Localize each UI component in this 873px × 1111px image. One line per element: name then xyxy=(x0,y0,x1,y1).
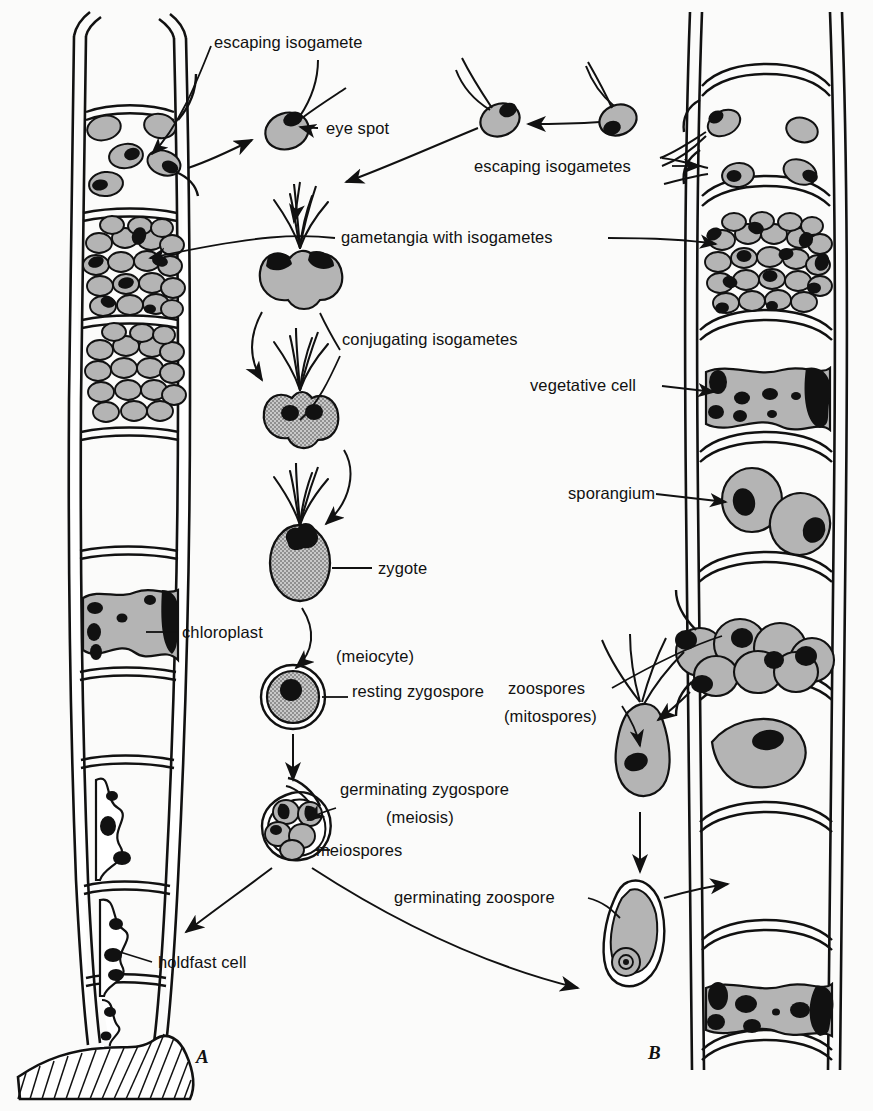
label-meiosis: (meiosis) xyxy=(386,808,454,826)
resting-zygospore xyxy=(261,665,325,729)
label-meiocyte: (meiocyte) xyxy=(336,647,414,665)
label-escaping-isogametes: escaping isogametes xyxy=(474,157,631,175)
label-meiospores: meiospores xyxy=(316,841,402,859)
label-eye-spot: eye spot xyxy=(326,119,389,137)
label-escaping-isogamete: escaping isogamete xyxy=(214,33,363,51)
cell-a5-chloroplast xyxy=(83,590,178,660)
label-germinating-zoospore: germinating zoospore xyxy=(394,888,555,906)
cell-b8-vegetative xyxy=(706,982,833,1036)
panel-label-b: B xyxy=(647,1042,661,1063)
leader-eye-spot xyxy=(300,127,318,128)
label-sporangium: sporangium xyxy=(568,484,655,502)
label-gametangia-with-isogametes: gametangia with isogametes xyxy=(341,228,553,246)
label-holdfast-cell: holdfast cell xyxy=(158,953,246,971)
label-mitospores: (mitospores) xyxy=(504,707,597,725)
figure-canvas: escaping isogamete eye spot escaping iso… xyxy=(0,0,873,1111)
life-cycle-diagram: escaping isogamete eye spot escaping iso… xyxy=(0,0,873,1111)
cell-b2-gametangium-packed xyxy=(704,212,832,315)
label-conjugating-isogametes: conjugating isogametes xyxy=(342,330,518,348)
panel-label-a: A xyxy=(195,1046,209,1067)
cell-b3-vegetative xyxy=(706,367,831,430)
label-germinating-zygospore: germinating zygospore xyxy=(340,780,509,798)
label-vegetative-cell: vegetative cell xyxy=(530,376,636,394)
label-chloroplast: chloroplast xyxy=(182,623,263,641)
label-resting-zygospore: resting zygospore xyxy=(352,682,484,700)
label-zygote: zygote xyxy=(378,559,427,577)
label-zoospores: zoospores xyxy=(508,679,585,697)
